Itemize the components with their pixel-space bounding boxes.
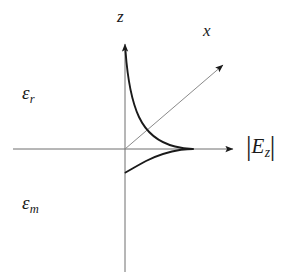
metal-decay-curve <box>126 149 194 173</box>
ez-symbol: E <box>252 134 265 158</box>
epsilon-m-subscript: m <box>30 202 39 216</box>
ez-right-bar: | <box>270 130 276 161</box>
epsilon-m-symbol: ε <box>22 192 30 213</box>
diagonal-axis-label: x <box>203 22 211 39</box>
epsilon-r-symbol: ε <box>22 82 30 103</box>
ez-left-bar: | <box>246 130 252 161</box>
horizontal-axis-label: |Ez| <box>246 130 275 158</box>
figure-canvas: z x εr εm |Ez| <box>0 0 289 279</box>
diagonal-axis-line <box>125 65 223 149</box>
epsilon-r-subscript: r <box>30 92 35 106</box>
upper-region-label: εr <box>22 83 34 102</box>
lower-region-label: εm <box>22 193 39 212</box>
vertical-axis-label: z <box>117 8 124 25</box>
